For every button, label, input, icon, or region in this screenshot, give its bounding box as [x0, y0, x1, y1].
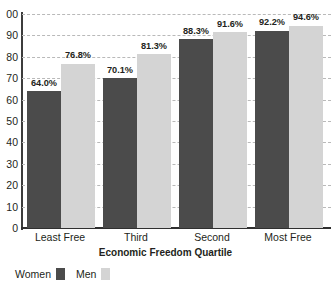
x-tick-least-free: Least Free [22, 232, 98, 244]
bar-women-second[interactable] [179, 39, 213, 228]
value-label-women-third: 70.1% [99, 66, 141, 75]
bar-men-third[interactable] [137, 54, 171, 228]
value-label-men-second: 91.6% [209, 20, 251, 29]
bar-men-most-free[interactable] [289, 26, 323, 228]
y-tick-30: 30 [0, 159, 18, 170]
y-tick-100: 00 [0, 9, 18, 20]
bar-women-most-free[interactable] [255, 31, 289, 228]
legend-swatch-men-icon [101, 268, 110, 280]
x-tick-second: Second [174, 232, 250, 244]
y-tick-20: 20 [0, 180, 18, 191]
value-label-women-least-free: 64.0% [23, 79, 65, 88]
y-tick-50: 50 [0, 116, 18, 127]
plot-area: 64.0% 76.8% 70.1% 81.3% 88.3% 91.6% 92.2… [22, 14, 331, 228]
y-tick-0: 0 [0, 223, 18, 234]
bar-women-third[interactable] [103, 78, 137, 228]
y-axis-tick-labels: 00 90 80 70 60 50 40 30 20 10 0 [0, 14, 18, 228]
value-label-men-most-free: 94.6% [285, 13, 327, 22]
y-tick-10: 10 [0, 201, 18, 212]
y-tick-90: 90 [0, 30, 18, 41]
bar-women-least-free[interactable] [27, 91, 61, 228]
bar-men-least-free[interactable] [61, 64, 95, 228]
value-label-men-third: 81.3% [133, 42, 175, 51]
y-tick-70: 70 [0, 73, 18, 84]
legend: Women Men [15, 267, 121, 281]
x-tick-third: Third [98, 232, 174, 244]
legend-swatch-women-icon [56, 268, 65, 280]
x-tick-most-free: Most Free [250, 232, 326, 244]
y-tick-40: 40 [0, 137, 18, 148]
bar-men-second[interactable] [213, 32, 247, 228]
bar-chart: 00 90 80 70 60 50 40 30 20 10 0 [0, 0, 331, 287]
legend-item-men[interactable]: Men [76, 268, 121, 280]
y-tick-80: 80 [0, 52, 18, 63]
y-tick-60: 60 [0, 94, 18, 105]
legend-label-women: Women [15, 269, 51, 280]
value-label-men-least-free: 76.8% [57, 51, 99, 60]
legend-label-men: Men [76, 269, 96, 280]
x-axis-title: Economic Freedom Quartile [0, 247, 331, 258]
legend-item-women[interactable]: Women [15, 268, 76, 280]
